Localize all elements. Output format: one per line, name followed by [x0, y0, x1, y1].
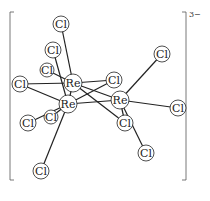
rhenium-atom: Re: [111, 91, 129, 109]
chlorine-atom: Cl: [40, 63, 54, 77]
chlorine-atom: Cl: [53, 16, 69, 32]
svg-text:Cl: Cl: [55, 18, 67, 31]
right-bracket: [182, 12, 186, 180]
svg-text:Cl: Cl: [172, 102, 184, 115]
chlorine-atom: Cl: [33, 163, 49, 179]
svg-text:Cl: Cl: [45, 111, 57, 124]
svg-text:Re: Re: [113, 94, 128, 107]
charge-label: 3−: [189, 10, 201, 19]
svg-text:Cl: Cl: [119, 117, 131, 130]
svg-text:Re: Re: [61, 98, 76, 111]
bonds: [20, 24, 178, 171]
chlorine-atom: Cl: [138, 145, 154, 161]
chlorine-atom: Cl: [45, 42, 61, 58]
chlorine-atom: Cl: [44, 110, 58, 124]
svg-text:Re: Re: [66, 77, 81, 90]
chlorine-atom: Cl: [106, 72, 122, 88]
chlorine-atom: Cl: [20, 115, 36, 131]
svg-text:Cl: Cl: [35, 165, 47, 178]
chlorine-atom: Cl: [170, 100, 186, 116]
svg-text:Cl: Cl: [47, 44, 59, 57]
svg-text:Cl: Cl: [108, 74, 120, 87]
chlorine-atom: Cl: [117, 115, 133, 131]
svg-text:Cl: Cl: [14, 78, 26, 91]
svg-text:Cl: Cl: [41, 64, 53, 77]
cluster-diagram: 3− ReReReClClClClClClClClClClClCl: [0, 0, 210, 201]
chlorine-atom: Cl: [154, 46, 170, 62]
left-bracket: [10, 12, 14, 180]
svg-text:Cl: Cl: [140, 147, 152, 160]
rhenium-atom: Re: [59, 95, 77, 113]
rhenium-atom: Re: [64, 74, 82, 92]
atoms: ReReReClClClClClClClClClClClCl: [12, 16, 186, 179]
svg-text:Cl: Cl: [22, 117, 34, 130]
chlorine-atom: Cl: [12, 76, 28, 92]
svg-text:Cl: Cl: [156, 48, 168, 61]
